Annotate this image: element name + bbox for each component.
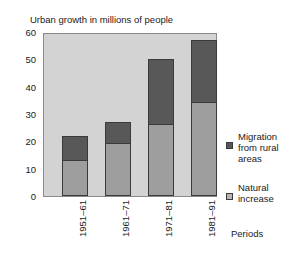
legend-swatch-natural-icon — [226, 193, 233, 200]
x-tick-label-1951-61: 1951–61 — [78, 200, 88, 237]
chart-figure: Urban growth in millions of people 60 50… — [0, 0, 298, 262]
legend-label-natural-line1: Natural — [238, 182, 298, 193]
bar-segment-natural-4[interactable] — [191, 102, 217, 196]
plot-area — [43, 33, 217, 197]
y-tick-label-60: 60 — [25, 28, 36, 38]
y-tick-label-50: 50 — [25, 55, 36, 65]
bar-group-1961-71[interactable] — [105, 122, 131, 196]
x-tick-label-1971-81: 1971–81 — [164, 200, 174, 237]
y-tick-label-40: 40 — [25, 83, 36, 93]
y-tick-label-30: 30 — [25, 110, 36, 120]
bar-segment-migration-2[interactable] — [105, 122, 131, 144]
bar-group-1981-91[interactable] — [191, 40, 217, 196]
legend-label-migration-line1: Migration — [238, 131, 298, 142]
legend-label-natural-line2: increase — [238, 193, 298, 204]
y-tick-label-0: 0 — [31, 192, 36, 202]
y-tick-label-10: 10 — [25, 165, 36, 175]
bar-segment-migration-4[interactable] — [191, 40, 217, 103]
y-axis: 60 50 40 30 20 10 0 — [0, 33, 43, 197]
legend-entry-migration[interactable]: Migration from rural areas — [226, 131, 298, 164]
bar-segment-migration-1[interactable] — [62, 136, 88, 161]
bar-segment-migration-3[interactable] — [148, 59, 174, 125]
bar-segment-natural-3[interactable] — [148, 124, 174, 196]
legend-swatch-migration-icon — [226, 142, 233, 149]
legend-label-natural: Natural increase — [238, 182, 298, 204]
x-tick-label-1981-91: 1981–91 — [207, 200, 217, 237]
y-tick-label-20: 20 — [25, 137, 36, 147]
legend-entry-natural[interactable]: Natural increase — [226, 182, 298, 204]
legend-label-migration-line2: from rural — [238, 142, 298, 153]
bar-segment-natural-2[interactable] — [105, 143, 131, 196]
x-tick-label-1961-71: 1961–71 — [121, 200, 131, 237]
x-axis-title: Periods — [231, 228, 263, 239]
chart-title: Urban growth in millions of people — [30, 14, 173, 25]
bar-group-1971-81[interactable] — [148, 59, 174, 196]
legend-label-migration: Migration from rural areas — [238, 131, 298, 164]
bars-layer — [44, 34, 216, 196]
x-axis-labels: 1951–61 1961–71 1971–81 1981–91 — [43, 198, 217, 256]
legend-label-migration-line3: areas — [238, 153, 298, 164]
bar-segment-natural-1[interactable] — [62, 160, 88, 197]
chart-legend: Migration from rural areas Natural incre… — [226, 131, 298, 213]
bar-group-1951-61[interactable] — [62, 136, 88, 196]
